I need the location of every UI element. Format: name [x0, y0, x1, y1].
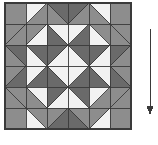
direction-arrow — [147, 29, 154, 115]
arrow-head-icon — [147, 106, 154, 115]
figure-root: Six-by-six grid of half-square triangle … — [0, 0, 158, 145]
direction-arrow-annotation — [0, 0, 158, 145]
